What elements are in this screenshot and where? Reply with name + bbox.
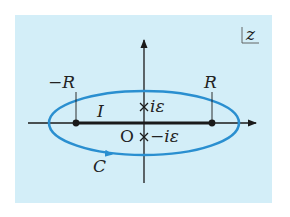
origin-label: O	[120, 126, 134, 146]
neg-R-label: −R	[48, 72, 75, 92]
pole-upper-label: iε	[150, 96, 165, 116]
contour-label: C	[93, 156, 106, 176]
plane-label: z	[245, 24, 256, 44]
pole-lower-label: −iε	[150, 126, 179, 146]
pos-R-label: R	[203, 72, 217, 92]
interval-label: I	[96, 101, 104, 121]
complex-plane-diagram: z −R R I O iε −iε C	[0, 0, 290, 217]
